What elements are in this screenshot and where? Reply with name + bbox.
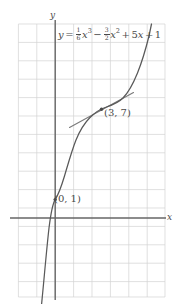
equation-operator-3: + — [145, 29, 153, 40]
function-graph-figure: y x y=16x3−32x2+5x+1 (3, 7) (0, 1) — [0, 0, 184, 304]
tangent-point-marker — [100, 108, 103, 111]
equation-operator-1: − — [93, 29, 101, 40]
x-axis-label: x — [167, 213, 172, 222]
tangent-point-label: (3, 7) — [104, 108, 131, 118]
intercept-point-label: (0, 1) — [54, 194, 81, 204]
equation-equals: = — [65, 29, 73, 40]
term1-exponent: 3 — [88, 27, 92, 35]
equation-lhs: y — [58, 29, 64, 40]
cubic-curve — [42, 24, 152, 304]
term2-denominator: 2 — [104, 34, 110, 42]
plot-canvas — [0, 0, 184, 304]
equation-term2-fraction: 32 — [104, 27, 110, 41]
equation-term1-fraction: 16 — [76, 27, 82, 41]
term3-variable: x — [138, 29, 144, 40]
grid-lines — [18, 24, 165, 297]
term1-denominator: 6 — [76, 34, 82, 42]
term4-constant: 1 — [155, 29, 161, 40]
equation-operator-2: + — [122, 29, 130, 40]
equation-label: y=16x3−32x2+5x+1 — [58, 27, 161, 41]
y-axis-label: y — [50, 11, 55, 20]
term2-exponent: 2 — [116, 27, 120, 35]
